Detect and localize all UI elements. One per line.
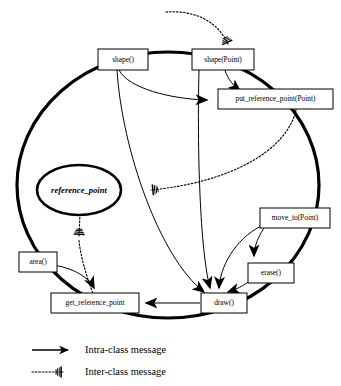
legend-item-intra: Intra-class message [32, 344, 166, 355]
message-type-legend: Intra-class message Inter-class message [32, 344, 166, 377]
class-message-diagram: shape() shape(Point) put_reference_point… [0, 0, 341, 386]
legend-label-inter: Inter-class message [85, 366, 166, 377]
inter-edge-reference-point-to-area [79, 214, 80, 236]
operation-box-draw[interactable]: draw() [201, 293, 247, 313]
operation-box-get-reference-point[interactable]: get_reference_point [51, 293, 139, 313]
legend-item-inter: Inter-class message [32, 366, 166, 377]
intra-edge-move-to-to-erase [254, 228, 264, 256]
inter-edge-external-to-shape-point [166, 12, 228, 44]
intra-edge-erase-to-draw [228, 282, 248, 292]
attribute-label-reference-point: reference_point [51, 185, 107, 195]
diagram-root: shape() shape(Point) put_reference_point… [0, 0, 341, 386]
operation-box-erase[interactable]: erase() [248, 263, 294, 283]
operation-label-area: area() [29, 257, 47, 266]
operation-box-shape[interactable]: shape() [98, 49, 148, 70]
intra-edge-shape-to-put-reference-point [119, 70, 207, 100]
intra-edge-shape-point-to-put-reference-point [225, 70, 240, 91]
legend-label-intra: Intra-class message [85, 344, 166, 355]
attribute-ellipse-reference-point[interactable]: reference_point [37, 165, 121, 215]
inter-edge-put-reference-point-to-reference-point [151, 110, 296, 190]
operation-label-get-reference-point: get_reference_point [65, 298, 125, 307]
operation-box-move-to[interactable]: move_to(Point) [260, 208, 330, 228]
operation-label-move-to: move_to(Point) [272, 213, 319, 222]
operation-label-shape: shape() [112, 55, 134, 64]
inter-edge-get-reference-point-to-reference-point [79, 240, 94, 296]
operation-label-shape-point: shape(Point) [204, 55, 242, 64]
operation-box-put-reference-point[interactable]: put_reference_point(Point) [218, 89, 333, 109]
intra-edge-shape-to-draw [117, 70, 204, 292]
operation-box-shape-point[interactable]: shape(Point) [192, 49, 254, 70]
operation-label-put-reference-point: put_reference_point(Point) [235, 94, 316, 103]
operation-box-area[interactable]: area() [19, 252, 57, 272]
operation-label-erase: erase() [261, 268, 282, 277]
operation-label-draw: draw() [214, 298, 234, 307]
